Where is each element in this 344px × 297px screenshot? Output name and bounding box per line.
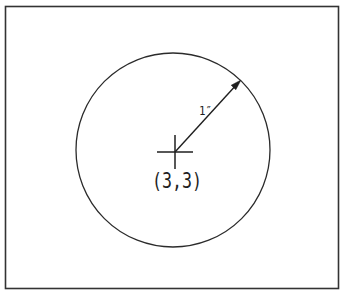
radius-label: 1″ xyxy=(199,103,212,118)
outer-border-rect xyxy=(6,7,339,289)
circle-shape xyxy=(76,53,270,247)
diagram-canvas: 1″ (3,3) xyxy=(0,0,344,297)
center-coordinates-label: (3,3) xyxy=(152,169,202,193)
diagram-page: 1″ (3,3) xyxy=(0,0,344,297)
